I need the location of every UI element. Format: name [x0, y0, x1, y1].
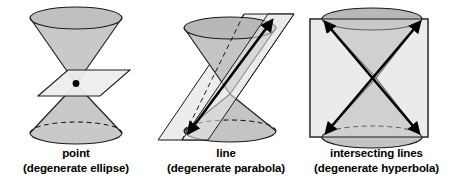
apex-point-dot — [73, 80, 80, 87]
caption-point-sub: (degenerate ellipse) — [0, 162, 152, 176]
panel-intersecting-lines: intersecting lines (degenerate hyperbola… — [298, 0, 455, 188]
cutting-plane — [38, 70, 130, 96]
upper-cone-rim — [30, 7, 122, 29]
caption-line-main: line — [146, 147, 306, 161]
panel-point: point (degenerate ellipse) — [0, 0, 152, 188]
caption-intersecting-sub: (degenerate hyperbola) — [298, 162, 455, 176]
caption-line-sub: (degenerate parabola) — [146, 162, 306, 176]
cutting-plane-parallelogram — [38, 70, 130, 96]
caption-intersecting-main: intersecting lines — [298, 147, 455, 161]
cutting-plane-front — [310, 19, 428, 137]
degenerate-conics-figure: point (degenerate ellipse) — [0, 0, 455, 188]
diagram-line-degenerate-parabola — [146, 0, 306, 150]
caption-point-main: point — [0, 147, 152, 161]
panel-line: line (degenerate parabola) — [146, 0, 306, 188]
diagram-point-degenerate-ellipse — [0, 0, 152, 150]
cutting-plane-front-face — [310, 19, 428, 137]
diagram-intersecting-lines-degenerate-hyperbola — [298, 0, 455, 150]
